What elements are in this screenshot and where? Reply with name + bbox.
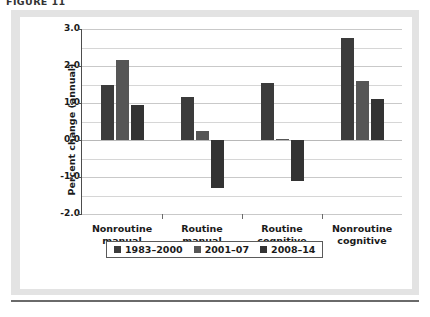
gridline (82, 177, 402, 178)
gridline (82, 140, 402, 141)
bar (131, 105, 144, 140)
bar (116, 60, 129, 140)
gridline (82, 196, 402, 197)
legend-label: 2001–07 (205, 244, 249, 255)
bar (291, 140, 304, 181)
legend-label: 1983–2000 (125, 244, 183, 255)
y-axis-tick-label: -2.0 (40, 208, 80, 218)
gridline (82, 66, 402, 67)
legend-swatch-icon (260, 246, 267, 253)
chart-legend: 1983–20002001–072008–14 (106, 241, 323, 258)
y-axis-tick-mark (78, 214, 82, 215)
legend-swatch-icon (114, 246, 121, 253)
legend-item: 2008–14 (260, 244, 315, 255)
x-axis-category-line: Nonroutine (79, 223, 165, 235)
x-axis-group-separator (322, 214, 323, 219)
y-axis-tick-label: 3.0 (40, 23, 80, 33)
x-axis-category-line: Nonroutine (319, 223, 405, 235)
y-axis-tick-label: 0.0 (40, 134, 80, 144)
y-axis-tick-label: 2.0 (40, 60, 80, 70)
legend-item: 2001–07 (194, 244, 249, 255)
gridline (82, 85, 402, 86)
gridline (82, 48, 402, 49)
x-axis-group-separator (242, 214, 243, 219)
figure-root: FIGURE 11 Percent change (annual) 3.02.0… (0, 0, 430, 317)
legend-item: 1983–2000 (114, 244, 183, 255)
x-axis-category-line: Routine (159, 223, 245, 235)
plot-area: 3.02.01.00.0-1.0-2.0NonroutinemanualRout… (82, 29, 402, 214)
x-axis-category-label: Nonroutinecognitive (319, 223, 405, 246)
y-axis-tick-mark (78, 29, 82, 30)
bar (211, 140, 224, 188)
figure-bottom-rule (11, 300, 419, 302)
bar (261, 83, 274, 140)
x-axis-category-line: cognitive (319, 235, 405, 247)
x-axis-category-line: Routine (239, 223, 325, 235)
bar (341, 38, 354, 140)
bar (101, 85, 114, 141)
legend-label: 2008–14 (271, 244, 315, 255)
bar (276, 139, 289, 141)
y-axis-tick-label: 1.0 (40, 97, 80, 107)
y-axis-tick-mark (78, 66, 82, 67)
gridline (82, 29, 402, 30)
bar (181, 97, 194, 140)
gridline (82, 103, 402, 104)
legend-swatch-icon (194, 246, 201, 253)
y-axis-tick-mark (78, 177, 82, 178)
y-axis-tick-label: -1.0 (40, 171, 80, 181)
bar (356, 81, 369, 140)
bar (196, 131, 209, 140)
bar (371, 99, 384, 140)
x-axis-group-separator (162, 214, 163, 219)
y-axis-tick-mark (78, 103, 82, 104)
y-axis-tick-mark (78, 140, 82, 141)
gridline (82, 159, 402, 160)
figure-caption: FIGURE 11 (6, 0, 65, 7)
